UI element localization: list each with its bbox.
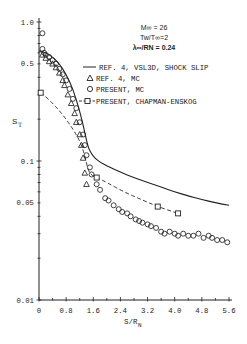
circle-marker — [111, 203, 116, 208]
st-vs-s-chart: 1.00.50.10.050.0100.81.62.43.24.04.85.6 … — [0, 0, 247, 344]
series-circle — [40, 31, 230, 245]
x-axis-label: S/R — [124, 318, 138, 326]
circle-marker — [181, 231, 186, 236]
y-tick-label: 0.01 — [16, 297, 34, 305]
circle-marker — [186, 233, 191, 238]
temperature-ratio-label: Tw/T∞=2 — [140, 34, 168, 41]
circle-marker — [120, 209, 125, 214]
axes: 1.00.50.10.050.0100.81.62.43.24.04.85.6 — [16, 18, 235, 315]
plot-area — [38, 31, 230, 245]
y-axis-title: S T — [12, 117, 22, 128]
legend-label-ref4-mc: REF. 4, MC — [96, 75, 140, 83]
x-tick-label: 5.6 — [222, 307, 235, 315]
circle-marker — [225, 240, 230, 245]
x-tick-label: 1.6 — [87, 307, 100, 315]
x-axis-title: S/R N — [124, 318, 142, 329]
circle-marker — [201, 235, 206, 240]
y-tick-label: 0.05 — [16, 199, 34, 207]
chapman-enskog-curve — [41, 93, 178, 214]
square-marker — [176, 211, 181, 216]
circle-marker — [94, 182, 99, 187]
circle-marker — [215, 238, 220, 243]
circle-marker — [74, 106, 79, 111]
circle-marker — [60, 72, 65, 77]
triangle-marker — [65, 92, 71, 97]
circle-marker — [196, 231, 201, 236]
y-tick-label: 1.0 — [21, 19, 34, 27]
x-tick-label: 0 — [37, 307, 41, 315]
x-tick-label: 2.4 — [114, 307, 128, 315]
circle-marker — [70, 96, 75, 101]
legend-label-present-mc: PRESENT, MC — [96, 86, 145, 94]
circle-marker — [154, 225, 159, 230]
legend-label-vsl3d: REF. 4, VSL3D, SHOCK SLIP — [99, 64, 208, 72]
square-marker — [155, 204, 160, 209]
circle-marker — [40, 31, 45, 36]
flow-conditions-annotation: M∞ = 26 Tw/T∞=2 λ∞/RN = 0.24 — [133, 24, 176, 51]
x-axis-label-subscript: N — [138, 322, 142, 329]
circle-marker — [220, 238, 225, 243]
triangle-marker — [84, 181, 90, 186]
triangle-marker — [72, 110, 78, 115]
triangle-marker — [82, 170, 88, 175]
y-tick-label: 0.1 — [21, 158, 35, 166]
legend-square-icon — [85, 99, 90, 104]
y-tick-label: 0.5 — [21, 60, 34, 68]
legend-triangle-icon — [87, 75, 93, 81]
knudsen-ratio-label: λ∞/RN = 0.24 — [133, 44, 176, 51]
x-tick-label: 4.0 — [168, 307, 181, 315]
square-marker — [38, 90, 43, 95]
circle-marker — [167, 229, 172, 234]
circle-marker — [98, 187, 103, 192]
x-tick-label: 3.2 — [141, 307, 154, 315]
circle-marker — [191, 233, 196, 238]
circle-marker — [128, 214, 133, 219]
y-axis-label-subscript: T — [18, 121, 22, 128]
mach-number-label: M∞ = 26 — [141, 24, 168, 31]
circle-marker — [67, 86, 72, 91]
square-marker — [94, 175, 99, 180]
y-axis-label: S — [12, 117, 17, 126]
x-tick-label: 0.8 — [60, 307, 73, 315]
legend-label-chapman-enskog: PRESENT, CHAPMAN-ENSKOG — [96, 98, 197, 106]
legend: REF. 4, VSL3D, SHOCK SLIP REF. 4, MC PRE… — [79, 64, 208, 106]
x-tick-label: 4.8 — [195, 307, 208, 315]
circle-marker — [116, 207, 121, 212]
circle-marker — [125, 211, 130, 216]
legend-circle-icon — [87, 86, 92, 91]
series-dash-square — [38, 90, 180, 216]
